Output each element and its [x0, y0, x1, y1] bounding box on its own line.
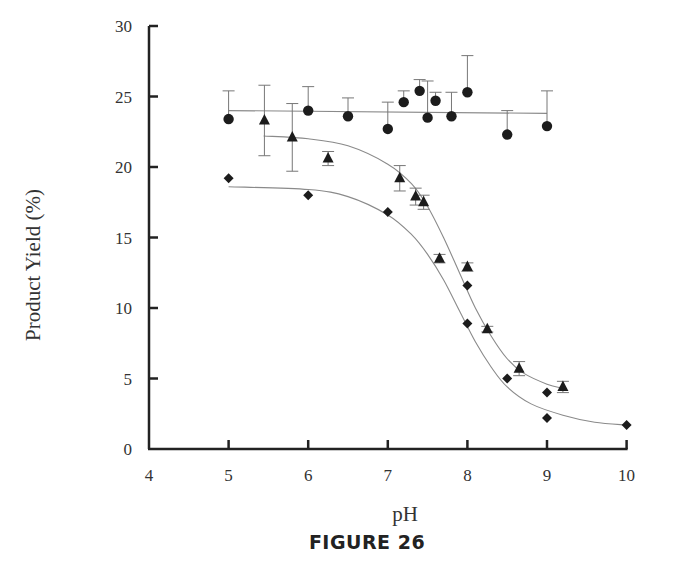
- x-tick-label: 8: [463, 466, 472, 485]
- diamond-marker: [542, 388, 552, 398]
- y-tick-label: 15: [115, 229, 132, 248]
- x-tick-label: 7: [384, 466, 393, 485]
- figure-caption: FIGURE 26: [0, 531, 694, 553]
- chart: 05101520253045678910 pH Product Yield (%…: [0, 0, 694, 573]
- diamond-marker: [383, 207, 393, 217]
- x-tick-label: 4: [145, 466, 154, 485]
- triangle-marker: [434, 252, 445, 263]
- triangle-marker: [557, 380, 568, 391]
- y-tick-label: 25: [115, 88, 132, 107]
- y-tick-label: 10: [115, 299, 132, 318]
- x-tick-label: 10: [618, 466, 635, 485]
- triangle-marker: [287, 131, 298, 142]
- x-tick-label: 5: [224, 466, 233, 485]
- x-axis-title: pH: [392, 502, 418, 526]
- circle-marker: [462, 87, 472, 97]
- triangle-marker: [482, 323, 493, 334]
- diamond-marker: [542, 413, 552, 423]
- circle-marker: [383, 124, 393, 134]
- diamond-marker: [303, 190, 313, 200]
- triangle-marker: [259, 114, 270, 125]
- circle-marker: [422, 112, 432, 122]
- x-tick-label: 9: [543, 466, 552, 485]
- x-tick-label: 6: [304, 466, 313, 485]
- triangles-fit-curve: [264, 136, 563, 388]
- diamond-marker: [224, 173, 234, 183]
- fit-curves: [229, 111, 627, 425]
- y-tick-label: 30: [115, 17, 132, 36]
- triangle-marker: [394, 172, 405, 183]
- y-axis-title: Product Yield (%): [21, 189, 45, 341]
- circle-marker: [343, 111, 353, 121]
- circle-marker: [430, 96, 440, 106]
- y-tick-label: 20: [115, 158, 132, 177]
- error-bars: [223, 56, 569, 393]
- y-tick-label: 0: [124, 440, 133, 459]
- triangle-marker: [323, 152, 334, 163]
- circle-marker: [446, 111, 456, 121]
- y-tick-label: 5: [124, 370, 133, 389]
- circle-marker: [502, 129, 512, 139]
- diamond-marker: [622, 420, 632, 430]
- circle-marker: [542, 121, 552, 131]
- circle-marker: [303, 105, 313, 115]
- axes: 05101520253045678910: [115, 17, 635, 485]
- diamond-marker: [502, 374, 512, 384]
- circle-marker: [414, 86, 424, 96]
- circle-marker: [223, 114, 233, 124]
- circle-marker: [399, 97, 409, 107]
- triangle-marker: [418, 196, 429, 207]
- triangle-marker: [462, 261, 473, 272]
